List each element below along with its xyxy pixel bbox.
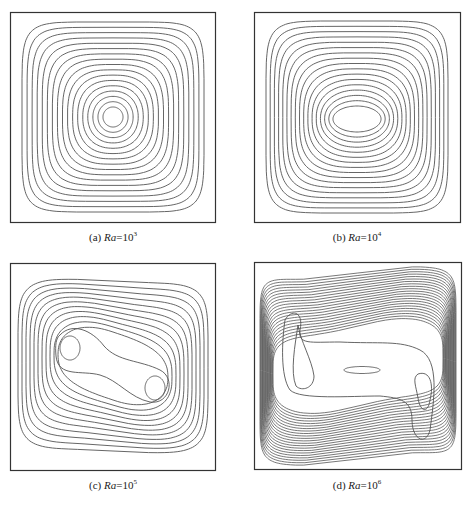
streamline: [273, 319, 443, 414]
caption-exponent: 6: [378, 478, 382, 486]
streamline: [260, 267, 456, 465]
streamline: [272, 316, 443, 416]
streamline: [293, 325, 314, 389]
streamline: [267, 296, 448, 436]
caption-d: (d) Ra=106: [333, 479, 382, 491]
streamline: [344, 367, 380, 374]
panel-d: (d) Ra=106: [0, 0, 468, 505]
caption-label: (d): [333, 479, 346, 491]
contour-plot-d: [0, 0, 468, 480]
streamline: [269, 303, 446, 428]
streamline: [283, 313, 435, 439]
streamline: [270, 306, 446, 426]
caption-variable: Ra: [348, 479, 360, 491]
caption-equals: =10: [361, 479, 378, 491]
streamline: [262, 274, 454, 458]
